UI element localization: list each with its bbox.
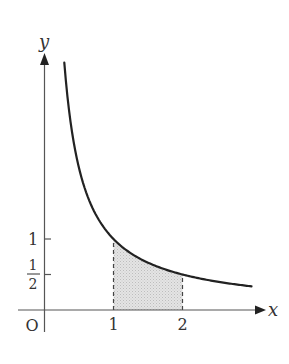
x-axis-label: x	[268, 299, 278, 320]
curve-y-equals-1-over-x	[64, 63, 251, 287]
x-tick-label-1: 1	[108, 315, 118, 334]
y-tick-label-1: 1	[28, 230, 38, 249]
shaded-area-region	[114, 239, 183, 310]
x-axis-arrow-icon	[255, 306, 266, 315]
origin-label: O	[25, 316, 38, 335]
y-axis-label: y	[38, 31, 50, 52]
y-tick-label-half-numerator: 1	[29, 257, 38, 273]
y-tick-label-half-denominator: 2	[29, 276, 38, 292]
y-axis-arrow-icon	[40, 53, 49, 65]
function-graph: y x O 1 2 1 1 2	[0, 0, 289, 364]
x-tick-label-2: 2	[177, 315, 187, 334]
graph-canvas: y x O 1 2 1 1 2	[0, 0, 289, 364]
